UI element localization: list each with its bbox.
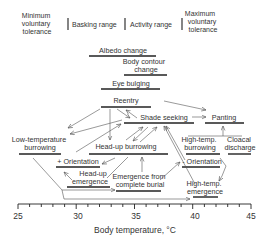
svg-text:Head-up burrowing: Head-up burrowing (95, 142, 156, 151)
low-temp-burrowing-node: Low-temperature burrowing (12, 135, 68, 154)
head-up-emergence-node: Head-up emergence (67, 169, 110, 187)
svg-text:High-temp. burrowing: High-temp. burrowing (181, 135, 218, 152)
svg-text:Emergence from complete: Emergence from complete burial (112, 172, 167, 189)
shade-seeking-node: Shade seeking (124, 113, 194, 123)
svg-text:+ Orientation: + Orientation (57, 157, 98, 166)
eye-bulging-node: Eye bulging (101, 79, 160, 89)
svg-text:- Orientation: - Orientation (182, 157, 222, 166)
tick-label: 40 (190, 211, 200, 221)
axis-title: Body temperature, °C (94, 225, 176, 235)
tick-label: 35 (131, 211, 141, 221)
svg-text:Eye bulging: Eye bulging (112, 79, 150, 88)
header-legend: Minimum voluntary tolerance Basking rang… (22, 10, 218, 35)
emergence-complete-burial-node: Emergence from complete burial (112, 172, 167, 191)
svg-text:Panting: Panting (212, 113, 236, 122)
panting-node: Panting (205, 113, 244, 123)
basking-range-label: Basking range (72, 21, 117, 29)
svg-text:Head-up emergence: Head-up emergence (72, 169, 109, 186)
svg-text:Cloacal discharge: Cloacal discharge (224, 135, 255, 152)
reentry-node: Reentry (101, 96, 151, 107)
albedo-change-node: Albedo change (89, 46, 156, 56)
svg-text:Body contour change: Body contour change (123, 57, 167, 74)
cloacal-discharge-node: Cloacal discharge (224, 135, 255, 154)
min-tolerance-label: Minimum voluntary tolerance (22, 12, 52, 35)
activity-range-label: Activity range (130, 21, 172, 29)
tick-label: 45 (246, 211, 256, 221)
body-contour-change-node: Body contour change (123, 57, 167, 75)
thermoregulation-diagram: Minimum voluntary tolerance Basking rang… (0, 0, 268, 240)
minus-orientation-node: - Orientation (182, 157, 222, 167)
max-tolerance-label: Maximum voluntary tolerance (185, 10, 218, 33)
svg-text:Reentry: Reentry (113, 96, 139, 105)
axis-ticks (18, 204, 251, 209)
plus-orientation-node: + Orientation (56, 157, 100, 167)
high-temp-burrowing-node: High-temp. burrowing (181, 135, 220, 154)
high-temp-emergence-node: High-temp. emergence (186, 179, 223, 197)
svg-text:High-temp. emergence: High-temp. emergence (186, 179, 223, 196)
svg-text:Albedo change: Albedo change (99, 46, 147, 55)
x-axis: 25 30 35 40 45 Body temperature, °C (13, 204, 256, 235)
svg-text:Shade seeking: Shade seeking (140, 113, 188, 122)
tick-label: 25 (13, 211, 23, 221)
head-up-burrowing-node: Head-up burrowing (89, 142, 168, 154)
tick-label: 30 (73, 211, 83, 221)
svg-text:Low-temperature burrowin: Low-temperature burrowing (12, 135, 68, 152)
